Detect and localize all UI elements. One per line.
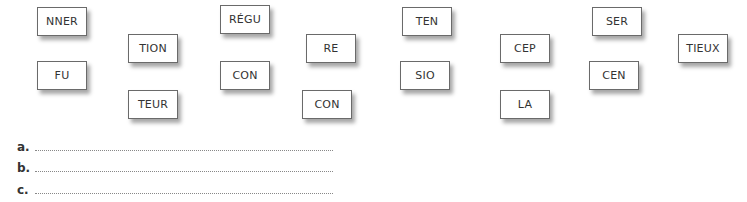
syllable-tile[interactable]: CEN	[589, 61, 639, 90]
syllable-tile[interactable]: CON	[302, 90, 352, 119]
answer-input-line[interactable]	[35, 170, 333, 172]
answer-label: a.	[17, 140, 35, 154]
syllable-tile[interactable]: LA	[500, 90, 550, 119]
syllable-tile[interactable]: FU	[37, 61, 87, 90]
syllable-tile[interactable]: TEN	[402, 7, 452, 36]
answer-line-a: a.	[17, 138, 333, 154]
answer-label: c.	[17, 183, 35, 197]
syllable-tile[interactable]: SER	[592, 7, 642, 36]
syllable-tile[interactable]: TIEUX	[678, 34, 728, 63]
answer-input-line[interactable]	[35, 192, 333, 194]
answer-label: b.	[17, 161, 35, 175]
syllable-tile[interactable]: CEP	[500, 34, 550, 63]
syllable-tile[interactable]: RÉGU	[220, 5, 270, 34]
syllable-tile[interactable]: CON	[220, 61, 270, 90]
syllable-tile[interactable]: TION	[128, 34, 178, 63]
syllable-tile[interactable]: TEUR	[128, 90, 178, 119]
syllable-tile[interactable]: SIO	[400, 61, 450, 90]
answer-line-c: c.	[17, 181, 333, 197]
syllable-tile[interactable]: RE	[306, 34, 356, 63]
answer-line-b: b.	[17, 159, 333, 175]
syllable-tile[interactable]: NNER	[37, 7, 87, 36]
answer-input-line[interactable]	[35, 149, 333, 151]
